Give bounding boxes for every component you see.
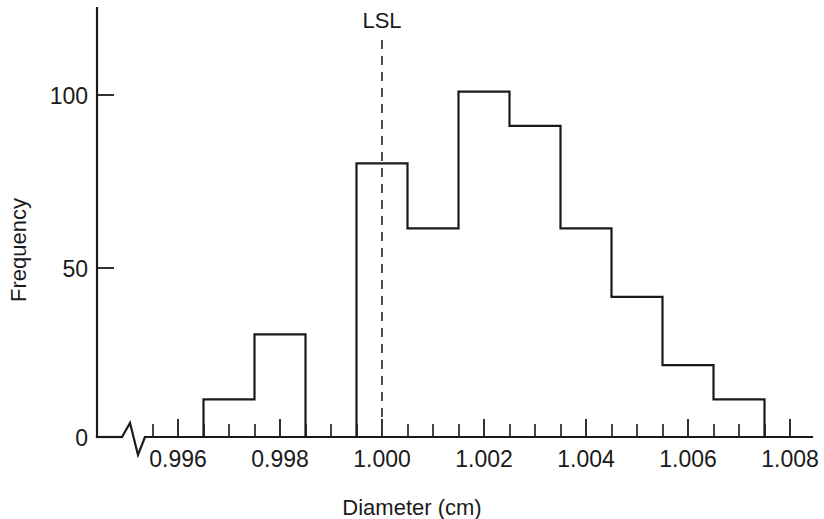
x-axis-minor-ticks (153, 424, 765, 437)
y-tick-label-100: 100 (50, 83, 88, 109)
x-tick-label-1.008: 1.008 (761, 446, 819, 472)
y-axis-title: Frequency (6, 198, 31, 302)
histogram-bar-group (204, 334, 306, 437)
y-axis-ticks (97, 95, 114, 268)
x-tick-label-1.002: 1.002 (455, 446, 513, 472)
x-axis-major-ticks (178, 419, 790, 437)
histogram-chart: 100 50 0 Frequency (0, 0, 824, 519)
lsl-label: LSL (362, 8, 401, 33)
x-tick-label-1.004: 1.004 (557, 446, 615, 472)
y-tick-label-50: 50 (62, 256, 88, 282)
axis-break-zigzag (122, 423, 145, 455)
x-tick-label-1.000: 1.000 (353, 446, 411, 472)
x-tick-label-0.996: 0.996 (149, 446, 207, 472)
x-tick-label-0.998: 0.998 (251, 446, 309, 472)
histogram-bars (204, 92, 765, 437)
x-axis-title: Diameter (cm) (342, 495, 481, 519)
y-tick-label-0: 0 (75, 425, 88, 451)
chart-canvas: 100 50 0 Frequency (0, 0, 824, 519)
x-tick-label-1.006: 1.006 (659, 446, 717, 472)
histogram-bar-group (357, 92, 765, 437)
